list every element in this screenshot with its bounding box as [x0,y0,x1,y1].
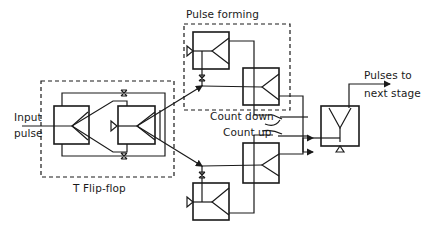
output-gate-block [313,106,359,152]
pf-upper-2-block [202,68,279,105]
pulse-forming-group [184,24,290,110]
count-down-label: Count down [210,111,274,122]
output-label-line1: Pulses to [364,70,412,81]
t-flip-flop-label: T Flip-flop [73,183,126,194]
pulse-forming-label: Pulse forming [186,9,259,20]
pf-lower-2-block [202,143,279,183]
ff-left-block [54,106,89,144]
output-label-line2: next stage [364,88,421,99]
input-label-line1: Input [14,112,42,123]
pf-upper-1-block [187,32,229,86]
count-up-label: Count up [223,127,272,138]
pf-lower-1-block [187,166,229,220]
ff-right-block [111,106,155,144]
input-label-line2: pulse [14,128,43,139]
t-flip-flop-group [41,81,174,177]
